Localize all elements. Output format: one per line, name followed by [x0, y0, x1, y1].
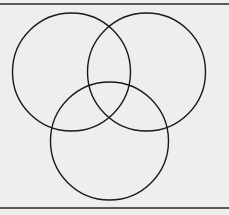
circle-right: [88, 13, 206, 131]
venn-svg: [0, 0, 229, 215]
venn-diagram: [0, 0, 229, 215]
circle-bottom: [51, 82, 169, 200]
circle-left: [13, 13, 131, 131]
